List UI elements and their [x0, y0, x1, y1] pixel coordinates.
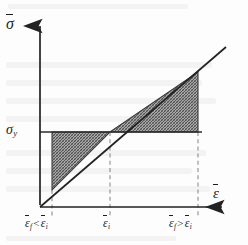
tick-left-subscript-2: i — [46, 222, 48, 231]
tick-left-symbol-2: ε — [41, 217, 46, 229]
tick-left-symbol: ε — [25, 217, 30, 229]
x-axis-label-symbol: ε — [213, 186, 219, 201]
hardening-triangle-region — [110, 72, 198, 132]
tick-mid-symbol: ε — [103, 217, 108, 229]
y-axis-label-symbol: σ — [6, 16, 14, 32]
yield-stress-subscript: y — [13, 128, 17, 138]
y-axis-label: σ — [6, 16, 14, 32]
tick-right-subscript: f — [174, 222, 176, 231]
yield-stress-label: σy — [6, 123, 17, 138]
tick-right-relation: > — [177, 217, 183, 229]
figure-canvas — [0, 0, 248, 245]
softening-triangle-region — [52, 132, 110, 190]
yield-stress-symbol: σ — [6, 122, 13, 137]
x-tick-label-lower-strain: εf<εi — [25, 217, 48, 231]
tick-mid-subscript: i — [108, 222, 110, 231]
stress-strain-figure: σ ε σy εf<εi εi εf>εi — [0, 0, 248, 245]
tick-right-subscript-2: i — [190, 222, 192, 231]
x-tick-label-higher-strain: εf>εi — [169, 217, 192, 231]
tick-left-subscript: f — [30, 222, 32, 231]
tick-right-symbol: ε — [169, 217, 174, 229]
x-tick-label-reference-strain: εi — [103, 217, 110, 231]
tick-left-relation: < — [33, 217, 39, 229]
tick-right-symbol-2: ε — [185, 217, 190, 229]
x-axis-label: ε — [213, 186, 219, 201]
